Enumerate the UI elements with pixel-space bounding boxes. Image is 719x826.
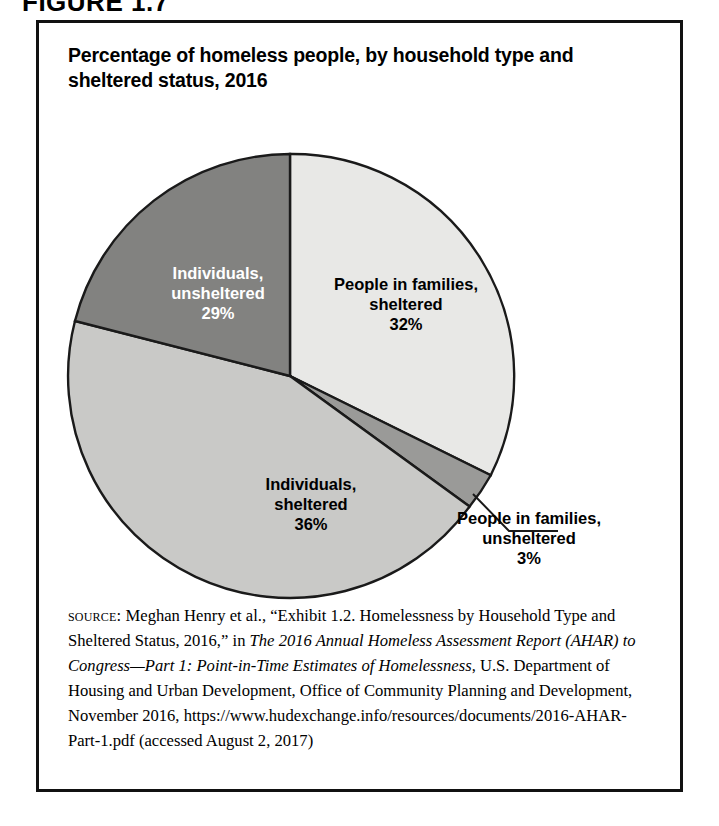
slice-value: 32% [311, 314, 501, 334]
source-note: source: Meghan Henry et al., “Exhibit 1.… [68, 603, 648, 753]
source-label: source: [68, 606, 121, 625]
figure-frame: Percentage of homeless people, by househ… [36, 20, 683, 792]
chart-title: Percentage of homeless people, by househ… [68, 43, 628, 93]
slice-value: 29% [133, 303, 303, 323]
slice-label-line1: People in families, [445, 508, 613, 528]
slice-label-line1: People in families, [311, 274, 501, 294]
slice-label-line2: unsheltered [133, 283, 303, 303]
slice-label-people-in-families-unsheltered: People in families, unsheltered 3% [445, 508, 613, 568]
slice-label-line2: unsheltered [445, 528, 613, 548]
slice-label-individuals-sheltered: Individuals, sheltered 36% [231, 474, 391, 534]
slice-label-individuals-unsheltered: Individuals, unsheltered 29% [133, 263, 303, 323]
figure-number-caption: FIGURE 1.7 [22, 0, 169, 18]
slice-value: 36% [231, 514, 391, 534]
pie-chart: Individuals, unsheltered 29% People in f… [39, 123, 680, 618]
slice-value: 3% [445, 548, 613, 568]
slice-label-line1: Individuals, [231, 474, 391, 494]
slice-label-line1: Individuals, [133, 263, 303, 283]
slice-label-line2: sheltered [311, 294, 501, 314]
slice-label-people-in-families-sheltered: People in families, sheltered 32% [311, 274, 501, 334]
slice-label-line2: sheltered [231, 494, 391, 514]
